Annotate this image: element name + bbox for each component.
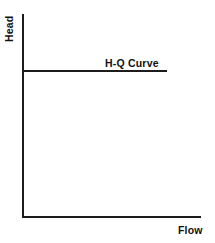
- x-axis-line: [22, 216, 201, 218]
- hq-curve-chart: Head Flow H-Q Curve: [0, 0, 215, 243]
- x-axis-label: Flow: [178, 224, 203, 236]
- y-axis-line: [22, 14, 24, 218]
- y-axis-label: Head: [2, 0, 16, 42]
- hq-curve-line: [22, 70, 167, 72]
- hq-curve-label: H-Q Curve: [105, 57, 159, 69]
